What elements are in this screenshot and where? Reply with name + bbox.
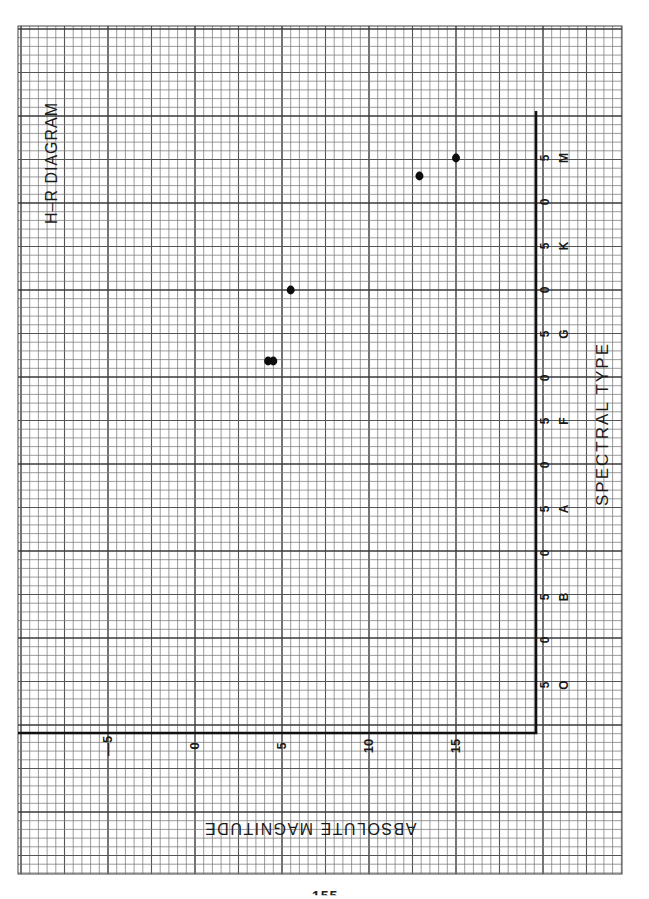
hr-diagram-chart: —50510155050505050505OBAFGKM H–R DIAGRAM… [0, 0, 649, 899]
spectral-subclass-tick-label: 5 [538, 505, 552, 512]
spectral-type-axis-title: SPECTRAL TYPE [593, 342, 612, 506]
spectral-class-label: B [557, 592, 571, 601]
chart-title: H–R DIAGRAM [43, 102, 60, 224]
magnitude-tick-label: 5 [274, 742, 289, 749]
spectral-subclass-tick-label: 5 [538, 417, 552, 424]
magnitude-tick-label: 0 [187, 742, 202, 749]
spectral-class-label: G [557, 329, 571, 338]
spectral-class-label: A [557, 504, 571, 513]
spectral-subclass-tick-label: 5 [538, 330, 552, 337]
magnitude-tick-label: 10 [361, 739, 376, 753]
spectral-subclass-tick-label: 0 [538, 636, 552, 643]
star-data-point [269, 357, 277, 366]
spectral-class-label: O [557, 680, 571, 689]
chart-axes [18, 111, 537, 733]
star-data-point [415, 172, 423, 181]
star-data-point [452, 154, 460, 163]
spectral-subclass-tick-label: 5 [538, 154, 552, 161]
spectral-subclass-tick-label: 0 [538, 374, 552, 381]
magnitude-tick-label: —5 [100, 736, 115, 756]
absolute-magnitude-axis-title: ABSOLUTE MAGNITUDE [204, 820, 417, 837]
chart-titles: H–R DIAGRAM SPECTRAL TYPE ABSOLUTE MAGNI… [43, 102, 612, 837]
magnitude-tick-label: 15 [448, 739, 463, 753]
spectral-subclass-tick-label: 5 [538, 593, 552, 600]
spectral-class-label: K [557, 241, 571, 250]
spectral-subclass-tick-label: 0 [538, 198, 552, 205]
spectral-subclass-tick-label: 0 [538, 286, 552, 293]
spectral-class-label: F [557, 417, 571, 424]
spectral-subclass-tick-label: 5 [538, 681, 552, 688]
star-data-point [287, 286, 295, 295]
spectral-subclass-tick-label: 0 [538, 461, 552, 468]
spectral-subclass-tick-label: 0 [538, 549, 552, 556]
spectral-class-label: M [557, 153, 571, 163]
axis-tick-labels: —50510155050505050505OBAFGKM [100, 153, 571, 756]
spectral-subclass-tick-label: 5 [538, 242, 552, 249]
